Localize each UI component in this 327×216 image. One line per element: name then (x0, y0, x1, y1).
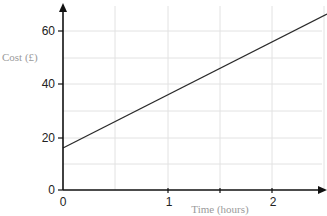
cost-time-chart: 0 20 40 60 0 1 2 Cost (£) Time (hours) (0, 0, 327, 216)
y-tick-label-0: 0 (48, 183, 55, 197)
y-tick-label-40: 40 (42, 77, 56, 91)
x-axis (63, 186, 327, 194)
y-axis-title: Cost (£) (2, 51, 38, 64)
x-tick-label-0: 0 (60, 195, 67, 209)
x-axis-arrow-icon (318, 186, 327, 194)
y-axis-arrow-icon (59, 3, 67, 12)
x-axis-title: Time (hours) (191, 203, 249, 216)
grid (63, 6, 324, 190)
y-tick-label-20: 20 (42, 131, 56, 145)
x-tick-label-2: 2 (270, 195, 277, 209)
y-tick-label-60: 60 (42, 24, 56, 38)
x-tick-label-1: 1 (166, 195, 173, 209)
cost-line (63, 14, 327, 148)
